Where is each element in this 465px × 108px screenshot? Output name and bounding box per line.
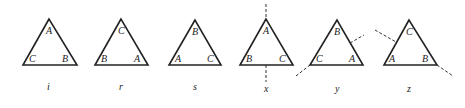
reflection-axis-lower: [296, 65, 310, 76]
figure-caption: y: [334, 83, 340, 94]
figure-caption: s: [193, 81, 197, 92]
vertex-right-label: C: [279, 53, 286, 64]
vertex-left-label: C: [29, 53, 36, 64]
reflection-axis-lower: [437, 65, 453, 76]
figure-caption: r: [119, 81, 123, 92]
figure-caption: i: [47, 81, 50, 92]
vertex-left-label: A: [174, 53, 182, 64]
vertex-right-label: A: [348, 53, 356, 64]
vertex-left-label: C: [316, 53, 323, 64]
figure-z: C A B z: [375, 20, 453, 94]
reflection-axis-upper: [350, 35, 364, 43]
figure-i: A C B i: [23, 19, 77, 92]
vertex-left-label: B: [101, 53, 107, 64]
vertex-right-label: C: [207, 53, 214, 64]
vertex-top-label: C: [406, 26, 413, 37]
vertex-right-label: A: [133, 53, 141, 64]
figure-caption: x: [263, 83, 269, 94]
vertex-left-label: B: [246, 53, 252, 64]
triangle-symmetry-diagram: A C B i C B A r B A C s A B C x B C A y: [0, 0, 465, 108]
figure-s: B A C s: [169, 20, 221, 92]
reflection-axis-upper: [375, 30, 396, 42]
vertex-top-label: C: [118, 25, 125, 36]
figure-r: C B A r: [95, 19, 148, 92]
vertex-top-label: B: [192, 26, 198, 37]
vertex-left-label: A: [388, 53, 396, 64]
vertex-top-label: A: [45, 25, 53, 36]
vertex-top-label: B: [334, 26, 340, 37]
figure-y: B C A y: [296, 20, 364, 94]
vertex-right-label: B: [62, 53, 68, 64]
figure-x: A B C x: [240, 4, 293, 94]
figure-caption: z: [406, 83, 411, 94]
vertex-top-label: A: [262, 25, 270, 36]
vertex-right-label: B: [422, 53, 428, 64]
